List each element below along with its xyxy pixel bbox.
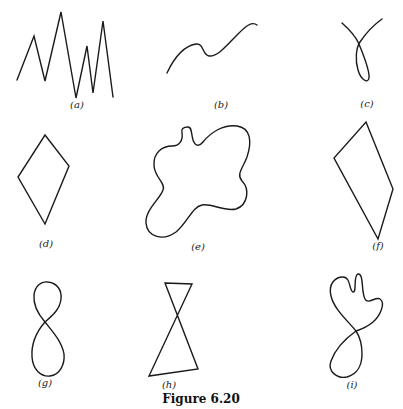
label-i: (i): [346, 379, 357, 390]
label-f: (f): [372, 240, 384, 251]
label-h: (h): [162, 379, 176, 390]
figure-canvas: [0, 0, 403, 409]
figure-caption: Figure 6.20: [162, 392, 240, 406]
shape-d-kite: [18, 135, 69, 224]
label-d: (d): [39, 238, 53, 249]
shape-c-loop: [342, 19, 382, 81]
shape-e-blob: [146, 126, 250, 237]
label-g: (g): [38, 377, 52, 388]
shape-a-zigzag: [17, 12, 113, 98]
shape-f-quadrilateral: [334, 122, 393, 239]
label-b: (b): [214, 99, 228, 110]
shape-g-figure-eight: [32, 282, 64, 376]
shape-b-curve: [167, 24, 257, 73]
shape-i-curve: [330, 274, 382, 377]
shape-h-bowtie: [149, 283, 198, 376]
label-a: (a): [70, 99, 84, 110]
label-c: (c): [360, 98, 373, 109]
label-e: (e): [191, 241, 205, 252]
